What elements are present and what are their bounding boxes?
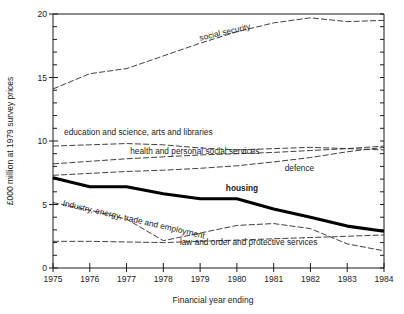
y-tick-label: 20 — [38, 9, 48, 19]
y-tick-label: 5 — [42, 200, 47, 210]
x-tick-label: 1980 — [227, 274, 246, 284]
series-label-defence: defence — [285, 163, 315, 173]
x-tick-label: 1984 — [375, 274, 394, 284]
series-label-social-security: social security — [198, 21, 252, 43]
y-tick-label: 15 — [38, 73, 48, 83]
x-axis-title: Financial year ending — [173, 295, 254, 305]
y-axis-tick-labels: 05101520 — [38, 9, 48, 273]
y-axis-title: £000 million at 1979 survey prices — [5, 77, 15, 206]
line-chart-figure: social securityeducation and science, ar… — [0, 0, 404, 314]
series-label-law-and-order-and-protective-services: law and order and protective services — [180, 237, 317, 247]
y-tick-label: 10 — [38, 136, 48, 146]
y-tick-label: 0 — [42, 263, 47, 273]
series-line-housing — [53, 178, 384, 231]
series-label-health-and-personal-social-services: health and personal social services — [130, 146, 259, 156]
x-tick-label: 1975 — [44, 274, 63, 284]
x-tick-label: 1978 — [154, 274, 173, 284]
chart-container: social securityeducation and science, ar… — [0, 0, 404, 314]
x-tick-label: 1981 — [264, 274, 283, 284]
x-tick-label: 1982 — [301, 274, 320, 284]
series-label-industry-energy-trade-and-employment: Industry, energy, trade and employment — [62, 198, 207, 241]
series-label-housing: housing — [226, 183, 258, 193]
x-tick-label: 1979 — [191, 274, 210, 284]
x-tick-label: 1983 — [338, 274, 357, 284]
x-tick-label: 1977 — [117, 274, 136, 284]
x-tick-label: 1976 — [80, 274, 99, 284]
series-labels-group: social securityeducation and science, ar… — [62, 21, 318, 247]
series-label-education-and-science-arts-and-libraries: education and science, arts and librarie… — [64, 127, 213, 137]
x-axis-tick-labels: 1975197619771978197919801981198219831984 — [44, 274, 394, 284]
